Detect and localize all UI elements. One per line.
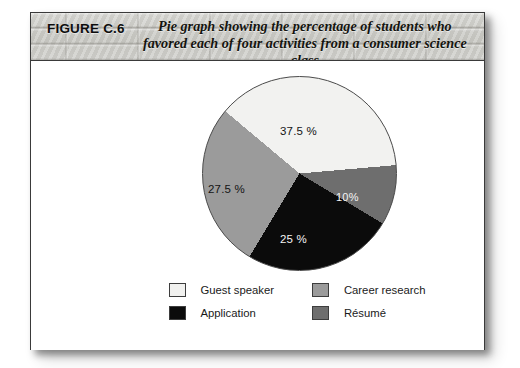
pie-chart: 37.5 % 27.5 % 25 % 10% [191,73,406,273]
legend-swatch-application [169,306,186,320]
legend-label-career-research: Career research [344,284,429,296]
figure-caption: Pie graph showing the percentage of stud… [140,18,470,61]
figure-number-label: FIGURE C.6 [47,18,125,36]
legend-item-resume [312,306,343,320]
legend-label-guest-speaker: Guest speaker [200,284,312,296]
legend-item-application [169,306,200,320]
legend-label-application: Application [200,307,312,319]
legend-label-resume: Résumé [344,307,429,319]
pie-slice-label-application: 25 % [280,233,307,245]
pie-slice-label-career-research: 27.5 % [208,183,245,195]
legend-swatch-career-research [312,283,329,297]
legend-swatch-resume [312,306,329,320]
legend-item-guest-speaker [169,283,200,297]
figure-body: 37.5 % 27.5 % 25 % 10% Guest speaker Car… [31,61,484,350]
pie-slice-label-guest-speaker: 37.5 % [280,125,317,137]
chart-legend: Guest speaker Career research Applicatio… [169,283,429,320]
figure-page: FIGURE C.6 Pie graph showing the percent… [0,0,520,368]
pie-slice-label-resume: 10% [336,191,359,203]
legend-item-career-research [312,283,343,297]
legend-swatch-guest-speaker [169,283,186,297]
figure-header-band: FIGURE C.6 Pie graph showing the percent… [31,13,484,61]
figure-card: FIGURE C.6 Pie graph showing the percent… [30,12,485,350]
